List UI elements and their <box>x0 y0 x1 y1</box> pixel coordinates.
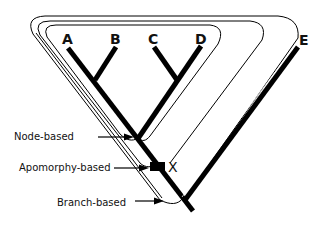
branch-b <box>95 47 116 80</box>
branch-based-label: Branch-based <box>57 197 126 208</box>
branch-based-clade-inner-edge <box>36 33 162 198</box>
phylogenetic-clade-definitions-diagram: A B C D E X Node-based Apomorphy-based B… <box>0 0 322 225</box>
taxon-label-a: A <box>62 31 73 47</box>
branch-based-arrow <box>135 198 164 205</box>
branch-d <box>137 46 201 140</box>
taxon-label-e: E <box>299 32 309 48</box>
apomorphy-x-label: X <box>168 159 178 175</box>
branch-e <box>185 47 298 200</box>
taxon-label-b: B <box>110 31 121 47</box>
taxon-label-d: D <box>195 31 207 47</box>
branch-c <box>154 47 177 80</box>
node-based-label: Node-based <box>14 131 74 142</box>
apomorphy-based-label: Apomorphy-based <box>19 162 111 173</box>
taxon-label-c: C <box>148 31 158 47</box>
apomorphy-marker-box <box>150 162 165 171</box>
